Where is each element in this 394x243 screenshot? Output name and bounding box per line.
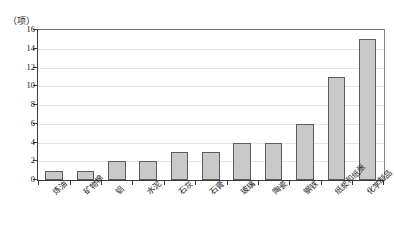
bar[interactable]: [265, 143, 283, 181]
x-axis-tick: [227, 181, 228, 185]
y-axis-label: 4: [13, 137, 35, 147]
y-axis-label: 2: [13, 155, 35, 165]
bar[interactable]: [233, 143, 251, 181]
y-axis-label: 12: [13, 62, 35, 72]
x-axis-tick: [132, 181, 133, 185]
bar-slot: [108, 30, 126, 180]
bar-slot: [202, 30, 220, 180]
y-axis-label: 16: [13, 24, 35, 34]
bar-slot: [139, 30, 157, 180]
bar-slot: [77, 30, 95, 180]
y-axis-label: 8: [13, 99, 35, 109]
bar[interactable]: [108, 161, 126, 180]
x-axis-tick: [289, 181, 290, 185]
bar-slot: [45, 30, 63, 180]
bar[interactable]: [171, 152, 189, 180]
y-axis-label: 0: [13, 174, 35, 184]
bar-chart: （项） 0246810121416 炼油矿物棉铝水泥石灰石膏玻璃陶瓷钢铁纸浆和纸…: [0, 0, 394, 243]
y-axis-label: 10: [13, 80, 35, 90]
bar-slot: [265, 30, 283, 180]
x-axis-tick: [321, 181, 322, 185]
x-axis-tick: [258, 181, 259, 185]
y-axis-label: 14: [13, 43, 35, 53]
bar[interactable]: [296, 124, 314, 180]
x-axis-tick: [70, 181, 71, 185]
bar[interactable]: [359, 39, 377, 180]
bar-slot: [359, 30, 377, 180]
bar-slot: [328, 30, 346, 180]
x-axis-tick: [195, 181, 196, 185]
x-axis-tick: [38, 181, 39, 185]
bar-slot: [296, 30, 314, 180]
x-axis-label: 铝: [113, 183, 126, 196]
bar[interactable]: [202, 152, 220, 180]
bar-series: [38, 30, 383, 180]
x-axis-tick: [164, 181, 165, 185]
bar[interactable]: [328, 77, 346, 180]
y-axis-label: 6: [13, 118, 35, 128]
bar-slot: [233, 30, 251, 180]
bar-slot: [171, 30, 189, 180]
